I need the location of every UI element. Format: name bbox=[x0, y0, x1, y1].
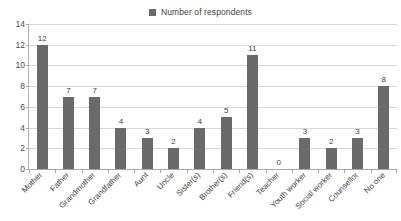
bar-value-label: 2 bbox=[171, 138, 175, 146]
bar-group[interactable]: 5 bbox=[213, 24, 239, 169]
bar[interactable] bbox=[194, 128, 205, 169]
x-axis-label-text: Mother bbox=[21, 171, 44, 194]
bar-value-label: 7 bbox=[92, 87, 96, 95]
bar-value-label: 5 bbox=[224, 107, 228, 115]
bar-group[interactable]: 0 bbox=[266, 24, 292, 169]
y-tick-label: 0 bbox=[20, 165, 25, 174]
bar-group[interactable]: 3 bbox=[292, 24, 318, 169]
y-tick-label: 4 bbox=[20, 123, 25, 132]
x-label-slot: Mother bbox=[28, 172, 54, 221]
y-tick-label: 14 bbox=[16, 20, 25, 29]
bar-group[interactable]: 4 bbox=[187, 24, 213, 169]
bar[interactable] bbox=[37, 45, 48, 169]
bar[interactable] bbox=[221, 117, 232, 169]
legend-label: Number of respondents bbox=[161, 8, 252, 17]
bar-value-label: 7 bbox=[66, 87, 70, 95]
bar-value-label: 3 bbox=[145, 128, 149, 136]
bar-group[interactable]: 11 bbox=[239, 24, 265, 169]
bar-value-label: 8 bbox=[382, 76, 386, 84]
bar-group[interactable]: 7 bbox=[55, 24, 81, 169]
chart-legend: Number of respondents bbox=[0, 6, 401, 18]
x-label-slot: No one bbox=[371, 172, 397, 221]
bar-value-label: 4 bbox=[198, 118, 202, 126]
bar-value-label: 4 bbox=[119, 118, 123, 126]
x-label-slot: Counsellor bbox=[344, 172, 370, 221]
bar-group[interactable]: 7 bbox=[82, 24, 108, 169]
bar-value-label: 3 bbox=[355, 128, 359, 136]
plot-frame: 02468101214 1277432451103238 bbox=[28, 24, 397, 169]
x-axis-label-text: Aunt bbox=[132, 171, 149, 188]
legend-swatch-icon bbox=[149, 9, 156, 16]
plot-area: 02468101214 1277432451103238 bbox=[28, 24, 397, 169]
x-axis-label-text: Uncle bbox=[156, 171, 176, 191]
bar[interactable] bbox=[63, 97, 74, 170]
bar-value-label: 3 bbox=[303, 128, 307, 136]
bar-value-label: 11 bbox=[248, 45, 256, 53]
x-axis-labels: MotherFatherGrandmotherGrandfatherAuntUn… bbox=[28, 172, 397, 221]
x-label-slot: Grandfather bbox=[107, 172, 133, 221]
bars-layer: 1277432451103238 bbox=[29, 24, 397, 169]
y-tick-label: 12 bbox=[16, 40, 25, 49]
bar-group[interactable]: 2 bbox=[160, 24, 186, 169]
y-tick-label: 10 bbox=[16, 61, 25, 70]
x-label-slot: Aunt bbox=[133, 172, 159, 221]
bar-value-label: 12 bbox=[38, 35, 47, 43]
bar-chart: Number of respondents 02468101214 127743… bbox=[0, 0, 401, 221]
y-tick-label: 2 bbox=[20, 144, 25, 153]
bar[interactable] bbox=[89, 97, 100, 170]
y-tick-label: 6 bbox=[20, 103, 25, 112]
bar-group[interactable]: 12 bbox=[29, 24, 55, 169]
y-tick-label: 8 bbox=[20, 82, 25, 91]
